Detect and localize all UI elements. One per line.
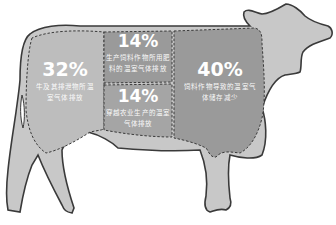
segment-percent: 14% — [100, 33, 176, 50]
segment-label-feed-crop-storage: 40% 饲料作物导致的温室气 体储存减少 — [180, 60, 260, 104]
segment-description-line1: 牛及其排泄物所温 — [30, 82, 100, 93]
segment-description-line1: 饲料作物导致的温室气 — [180, 82, 260, 93]
segment-description-line2: 体储存减少 — [180, 93, 260, 104]
segment-label-fertilizer-emissions: 14% 生产饲料作物所用肥 料的温室气体排放 — [100, 33, 176, 75]
segment-label-cattle-emissions: 32% 牛及其排泄物所温 室气体排放 — [30, 60, 100, 104]
segment-label-agriculture-emissions: 14% 穿越农业生产的温室 气体排放 — [100, 88, 176, 130]
segment-description-line1: 穿越农业生产的温室 — [100, 108, 176, 119]
segment-description-line2: 气体排放 — [100, 119, 176, 130]
segment-percent: 32% — [30, 60, 100, 79]
segment-percent: 14% — [100, 88, 176, 105]
segment-description-line2: 料的温室气体排放 — [100, 64, 176, 75]
segment-percent: 40% — [180, 60, 260, 79]
segment-description-line1: 生产饲料作物所用肥 — [100, 53, 176, 64]
segment-description-line2: 室气体排放 — [30, 93, 100, 104]
